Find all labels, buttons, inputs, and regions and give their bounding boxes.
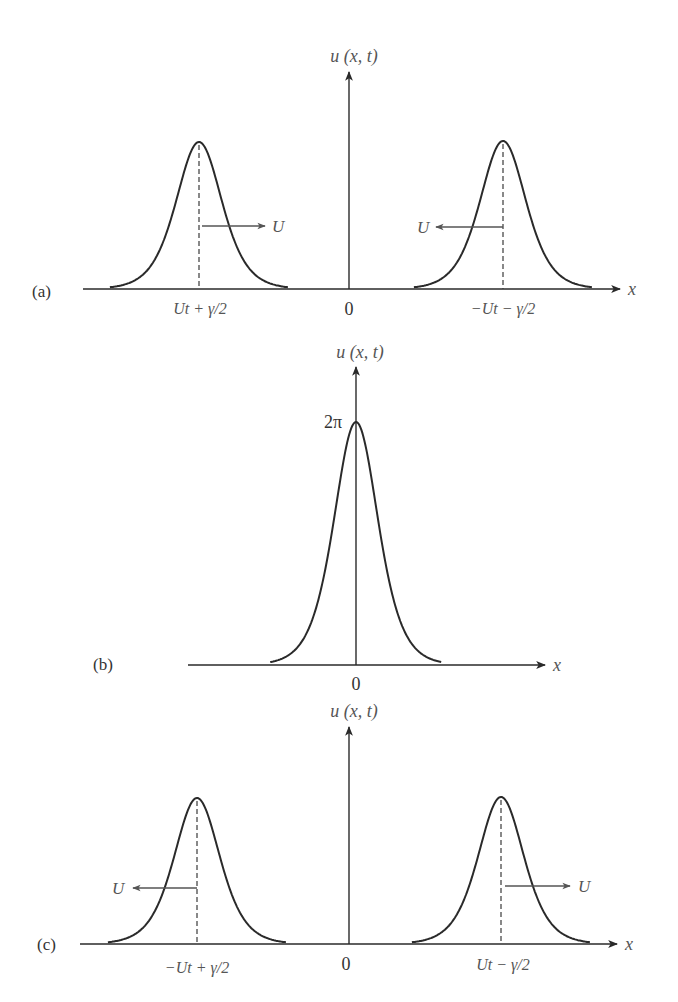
- pulse-position-label: Ut + γ/2: [173, 300, 227, 318]
- pulse-left: U Ut + γ/2: [110, 142, 288, 318]
- x-axis-label: x: [624, 934, 633, 954]
- panel-label: (a): [32, 282, 51, 301]
- x-axis-label: x: [627, 279, 636, 299]
- velocity-label: U: [417, 218, 431, 237]
- peak-value-label: 2π: [324, 412, 342, 432]
- y-axis-label: u (x, t): [330, 46, 377, 67]
- pulse-position-label: Ut − γ/2: [476, 956, 530, 974]
- pulse-right: U Ut − γ/2: [412, 797, 592, 974]
- y-axis-label: u (x, t): [336, 342, 383, 363]
- panel-b: (b) x u (x, t) 2π 0: [93, 342, 561, 694]
- pulse-position-label: −Ut + γ/2: [165, 959, 229, 977]
- panel-label: (c): [37, 935, 56, 954]
- panel-c: (c) x u (x, t) 0 U −Ut + γ/2 U Ut − γ/2: [37, 701, 633, 977]
- velocity-label: U: [272, 217, 286, 236]
- pulse-right: U −Ut − γ/2: [414, 141, 592, 318]
- origin-label: 0: [352, 674, 361, 694]
- pulse-left: U −Ut + γ/2: [108, 798, 286, 977]
- y-axis-label: u (x, t): [330, 701, 377, 722]
- soliton-figure: (a) x u (x, t) 0 U Ut + γ/2 U −Ut − γ/2 …: [0, 0, 678, 1002]
- panel-label: (b): [93, 655, 113, 674]
- pulse-position-label: −Ut − γ/2: [471, 300, 535, 318]
- velocity-label: U: [578, 877, 592, 896]
- velocity-label: U: [112, 879, 126, 898]
- x-axis-label: x: [552, 655, 561, 675]
- origin-label: 0: [342, 954, 351, 974]
- panel-a: (a) x u (x, t) 0 U Ut + γ/2 U −Ut − γ/2: [32, 46, 636, 319]
- origin-label: 0: [345, 299, 354, 319]
